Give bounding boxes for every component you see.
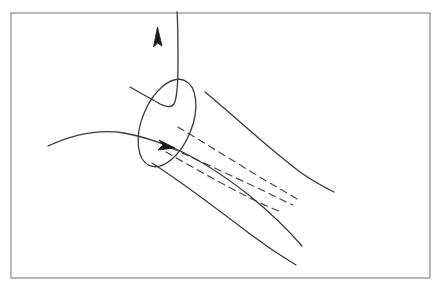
- figure-root: [0, 0, 443, 293]
- figure-background: [0, 0, 443, 293]
- figure-canvas: [0, 0, 443, 293]
